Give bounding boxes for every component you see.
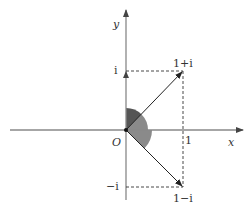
point-label-1-plus-i: 1+i <box>173 57 193 70</box>
tick-label-one: 1 <box>185 134 192 147</box>
tick-label-i: i <box>114 64 118 77</box>
i-arrow-mark <box>123 71 129 78</box>
point-label-1-minus-i: 1−i <box>173 192 193 205</box>
vector-1-minus-i <box>126 130 182 186</box>
x-axis-label: x <box>228 136 235 149</box>
tick-label-neg-i: −i <box>106 180 119 193</box>
complex-plane-diagram: y x O 1 i −i 1+i 1−i <box>0 0 249 216</box>
vector-1-plus-i <box>126 72 182 130</box>
origin-label: O <box>112 136 121 149</box>
origin-dot <box>124 128 128 132</box>
y-axis-label: y <box>112 18 120 31</box>
